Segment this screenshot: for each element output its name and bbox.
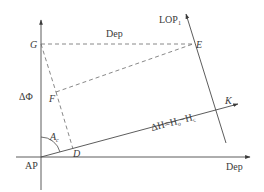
point-label-e: E (195, 39, 202, 50)
top-dep-label: Dep (106, 28, 123, 39)
angle-label: Ac (49, 131, 59, 143)
point-label-g: G (30, 39, 37, 50)
axis-dep-label: Dep (226, 161, 243, 172)
azimuth-line (41, 104, 238, 157)
delta-h-label: ΔH=Ho−Hc (150, 111, 197, 134)
point-label-f: F (48, 93, 56, 104)
delta-phi-label: ΔΦ (19, 91, 33, 102)
point-label-d: D (72, 148, 81, 159)
dashed-g-f (41, 44, 56, 92)
origin-label: AP (25, 160, 38, 171)
point-label-k: K (224, 95, 233, 106)
lop-line (186, 14, 226, 143)
lop-label: LOP1 (159, 14, 181, 26)
dashed-f-e (56, 44, 193, 92)
intercept-diagram: G E F D K Dep Dep AP ΔΦ LOP1 Ac ΔH=Ho−Hc (0, 0, 264, 192)
